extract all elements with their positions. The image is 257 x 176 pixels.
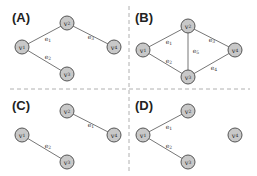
node-d-v1: v1 [136,128,151,143]
symbol-subscript: 2 [67,21,70,26]
edge-label: e4 [211,64,217,72]
symbol-subscript: 1 [22,45,25,50]
node-b-v3: v3 [181,70,196,85]
symbol-subscript: 1 [143,48,146,53]
panel-label-b: (B) [135,10,153,25]
node-a-v2: v2 [60,16,75,31]
node-a-v1: v1 [15,40,30,55]
symbol-subscript: 1 [143,133,146,138]
symbol-subscript: 4 [114,45,117,50]
symbol-subscript: 1 [22,133,25,138]
node-a-v3: v3 [60,67,75,82]
node-d-v2: v2 [181,104,196,119]
edge-label: e1 [88,121,94,129]
node-a-v4: v4 [107,40,122,55]
node-c-v4: v4 [107,128,122,143]
symbol-subscript: 2 [188,24,191,29]
node-b-v1: v1 [136,43,151,58]
symbol-subscript: 3 [212,39,215,44]
symbol-subscript: 4 [214,67,217,72]
symbol-subscript: 2 [48,56,51,61]
node-b-v2: v2 [181,19,196,34]
symbol-subscript: 4 [114,133,117,138]
symbol-subscript: 3 [91,36,94,41]
edge-label: e1 [166,123,172,131]
edge-label: e3 [88,33,94,41]
symbol-subscript: 2 [188,109,191,114]
symbol-subscript: 1 [169,41,172,46]
node-c-v2: v2 [60,104,75,119]
symbol-subscript: 3 [188,160,191,165]
symbol-subscript: 3 [188,75,191,80]
panel-label-c: (C) [12,98,30,113]
edge-label: e1 [166,38,172,46]
node-d-v4: v4 [228,128,243,143]
symbol-subscript: 3 [67,72,70,77]
symbol-subscript: 1 [91,124,94,129]
symbol-subscript: 2 [67,109,70,114]
symbol-subscript: 3 [67,160,70,165]
edge-label: e5 [193,47,199,55]
edge-label: e3 [209,36,215,44]
edge-label: e2 [166,57,172,65]
symbol-subscript: 4 [235,48,238,53]
symbol-subscript: 4 [235,133,238,138]
edge-label: e2 [45,53,51,61]
symbol-subscript: 2 [169,145,172,150]
symbol-subscript: 2 [169,60,172,65]
graph-figure: (A)e1e3e2v1v2v3v4(B)e1e2e5e3e4v1v2v3v4(C… [0,0,257,176]
panel-label-d: (D) [135,98,153,113]
symbol-subscript: 5 [196,50,199,55]
edge-label: e2 [166,142,172,150]
node-d-v3: v3 [181,155,196,170]
node-b-v4: v4 [228,43,243,58]
symbol-subscript: 2 [48,145,51,150]
node-c-v1: v1 [15,128,30,143]
panel-label-a: (A) [12,10,30,25]
edge-label: e1 [45,35,51,43]
symbol-subscript: 1 [169,126,172,131]
node-c-v3: v3 [60,155,75,170]
edge-label: e2 [45,142,51,150]
edge-layer [0,0,257,176]
symbol-subscript: 1 [48,38,51,43]
